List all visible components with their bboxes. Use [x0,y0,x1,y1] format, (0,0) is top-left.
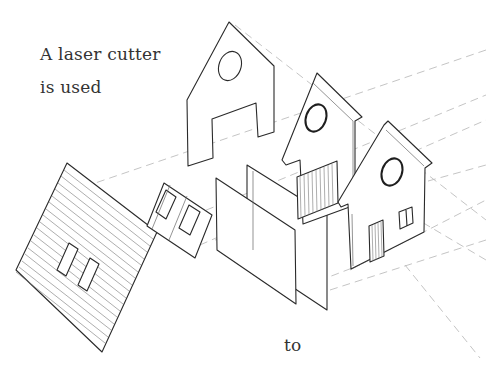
roof-panel [16,163,157,352]
caption-bottom: to [284,337,301,354]
caption-line-1: A laser cutter [40,46,161,63]
front-gable-panel [187,22,274,166]
caption-line-2: is used [40,79,102,96]
window-frame-piece [147,183,212,258]
